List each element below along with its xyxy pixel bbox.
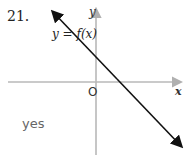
origin-label: O (88, 85, 97, 99)
function-line-upper (53, 12, 117, 79)
x-axis-label: x (175, 85, 182, 98)
function-line (117, 79, 181, 146)
y-axis-label: y (89, 5, 96, 19)
problem-number: 21. (7, 8, 29, 24)
answer-text: yes (22, 116, 44, 131)
function-label: y = f(x) (52, 27, 97, 41)
